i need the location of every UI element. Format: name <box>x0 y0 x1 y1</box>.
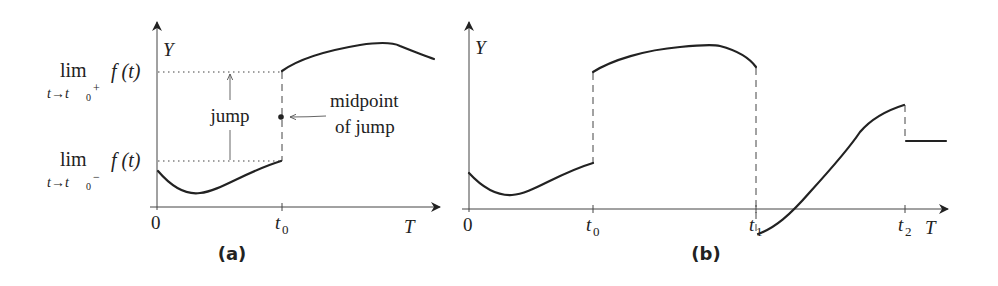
x-axis-label-a: T <box>404 216 416 237</box>
svg-text:t→t: t→t <box>47 175 70 190</box>
midpoint-label-1: midpoint <box>330 90 399 111</box>
origin-label-b: 0 <box>463 214 473 235</box>
curve-left-a <box>158 161 281 193</box>
curve-segment-1-b <box>469 163 593 195</box>
curve-segment-3-b <box>758 105 904 234</box>
y-axis-label-a: Y <box>163 39 176 60</box>
origin-label-a: 0 <box>151 212 161 233</box>
panel-label-a: (a) <box>218 243 247 264</box>
svg-text:−: − <box>93 170 100 184</box>
curve-right-a <box>282 43 434 71</box>
upper-limit-label: lim t→t 0 + f (t) <box>47 59 141 103</box>
midpoint-arrow <box>290 116 326 117</box>
svg-text:+: + <box>93 81 100 95</box>
t1-label-b: t <box>749 214 755 235</box>
svg-text:lim: lim <box>60 59 87 81</box>
midpoint-dot <box>278 114 284 120</box>
curve-segment-2-b <box>593 45 756 72</box>
t0-sub-b: 0 <box>593 224 600 239</box>
svg-text:t→t: t→t <box>47 86 70 101</box>
svg-text:lim: lim <box>60 148 87 170</box>
t0-sub-a: 0 <box>282 222 289 237</box>
lower-limit-label: lim t→t 0 − f (t) <box>47 148 141 192</box>
midpoint-label-2: of jump <box>335 116 395 137</box>
t1-sub-b: 1 <box>756 224 763 239</box>
y-axis-label-b: Y <box>475 37 488 58</box>
svg-text:0: 0 <box>86 92 91 103</box>
figure: jump midpoint of jump lim t→t 0 + f (t) … <box>0 0 998 286</box>
svg-text:f (t): f (t) <box>111 60 141 83</box>
svg-text:0: 0 <box>86 181 91 192</box>
x-axis-label-b: T <box>925 217 937 238</box>
svg-text:f (t): f (t) <box>111 149 141 172</box>
panel-b: Y T 0 t 0 t 1 t 2 (b) <box>462 22 948 264</box>
t0-label-b: t <box>586 214 592 235</box>
panel-label-b: (b) <box>691 243 720 264</box>
panel-a: jump midpoint of jump lim t→t 0 + f (t) … <box>47 22 440 264</box>
t2-sub-b: 2 <box>905 224 912 239</box>
jump-label: jump <box>209 105 249 126</box>
t2-label-b: t <box>898 214 904 235</box>
t0-label-a: t <box>275 212 281 233</box>
